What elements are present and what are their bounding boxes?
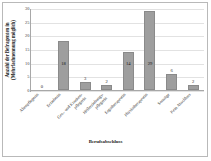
bar[interactable]: 18	[58, 41, 69, 90]
bar-slot: 0	[31, 9, 53, 90]
y-axis-title-line-2: (Mehrfachnennung möglich)	[10, 20, 16, 80]
bar-value-label: 2	[106, 80, 108, 85]
category-slot: Kein Abschluss	[182, 92, 204, 134]
bar-value-label: 6	[170, 69, 172, 74]
bar[interactable]: 3	[80, 82, 91, 90]
x-axis-title: Berufsabschluss	[0, 139, 211, 144]
bar-slot: 2	[182, 9, 204, 90]
bar[interactable]: 2	[101, 85, 112, 90]
bar[interactable]: 6	[166, 74, 177, 90]
bar-value-label: 0	[41, 85, 43, 90]
bar[interactable]: 29	[144, 11, 155, 90]
chart-screenshot: Anzahl der Befragenten in (Mehrfachnennu…	[0, 0, 211, 161]
bar-value-label: 14	[126, 62, 131, 67]
y-axis-title: Anzahl der Befragenten in (Mehrfachnennu…	[1, 8, 19, 92]
bar-slot: 18	[53, 9, 75, 90]
bar-slot: 29	[139, 9, 161, 90]
category-slot: Altenpflegerin	[30, 92, 52, 134]
bar[interactable]: 2	[188, 85, 199, 90]
bar-value-label: 18	[61, 62, 66, 67]
plot-area: 051015202530 01832142962	[30, 9, 204, 91]
bar-value-label: 29	[148, 62, 153, 67]
category-slot: Physiotherapeutin	[139, 92, 161, 134]
bar[interactable]: 14	[123, 52, 134, 90]
bar-slot: 6	[161, 9, 183, 90]
bars-layer: 01832142962	[31, 9, 204, 90]
bar-slot: 14	[118, 9, 140, 90]
bar-slot: 3	[74, 9, 96, 90]
bar-slot: 2	[96, 9, 118, 90]
bar-value-label: 3	[84, 77, 86, 82]
x-axis-category-labels: AltenpflegerinErzieherinGes.- und Kranke…	[30, 92, 204, 134]
bar-value-label: 2	[192, 80, 194, 85]
